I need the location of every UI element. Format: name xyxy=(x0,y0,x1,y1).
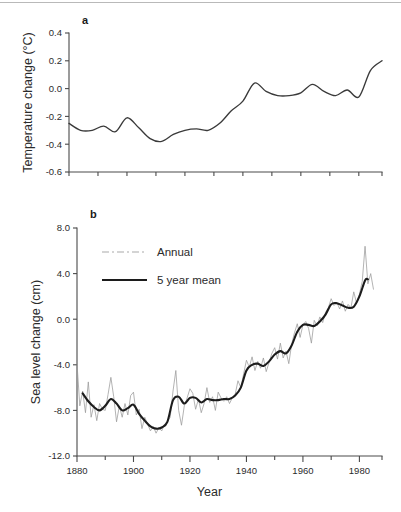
y-tick-label-b: 8.0 xyxy=(57,222,70,233)
y-tick-label-b: -12.0 xyxy=(48,450,70,461)
axis-spines-a xyxy=(69,33,382,172)
legend-label-five-year-mean: 5 year mean xyxy=(157,274,221,286)
y-tick-label-b: -8.0 xyxy=(54,405,70,416)
axis-spines-b xyxy=(77,228,382,456)
climate-figure-svg: 0.40.20.0-0.2-0.4-0.6Temperature change … xyxy=(0,0,401,512)
y-tick-label-b: -4.0 xyxy=(54,359,70,370)
sea-level-annual-curve xyxy=(77,246,374,433)
temperature-curve xyxy=(69,61,382,142)
panel-b: 8.04.00.0-4.0-8.0-12.0188019001920194019… xyxy=(29,208,382,499)
y-tick-label-b: 4.0 xyxy=(57,268,70,279)
panel-label-a: a xyxy=(82,14,89,26)
y-tick-label-b: 0.0 xyxy=(57,314,70,325)
y-tick-label-a: -0.6 xyxy=(46,166,62,177)
y-tick-label-a: -0.2 xyxy=(46,111,62,122)
y-axis-title-b: Sea level change (cm) xyxy=(29,280,43,404)
y-tick-label-a: 0.4 xyxy=(49,27,62,38)
x-tick-label-b: 1920 xyxy=(179,465,200,476)
y-tick-label-a: 0.2 xyxy=(49,55,62,66)
y-axis-title-a: Temperature change (°C) xyxy=(21,32,35,172)
x-axis-title-b: Year xyxy=(197,485,222,499)
x-tick-label-b: 1960 xyxy=(292,465,313,476)
y-tick-label-a: -0.4 xyxy=(46,139,62,150)
x-tick-label-b: 1900 xyxy=(123,465,144,476)
panel-a: 0.40.20.0-0.2-0.4-0.6Temperature change … xyxy=(21,14,382,177)
x-tick-label-b: 1880 xyxy=(66,465,87,476)
y-tick-label-a: 0.0 xyxy=(49,83,62,94)
top-divider-rule xyxy=(0,2,401,3)
x-tick-label-b: 1980 xyxy=(349,465,370,476)
x-tick-label-b: 1940 xyxy=(236,465,257,476)
legend-label-annual: Annual xyxy=(157,246,193,258)
panel-label-b: b xyxy=(90,208,97,220)
figure-container: 0.40.20.0-0.2-0.4-0.6Temperature change … xyxy=(0,0,401,512)
